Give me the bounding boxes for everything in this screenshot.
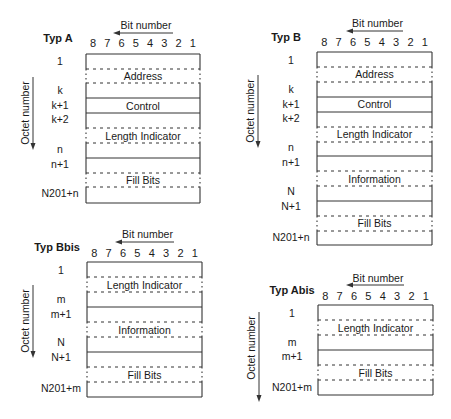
field-label: Fill Bits bbox=[359, 367, 393, 379]
octet-label: 1 bbox=[289, 307, 295, 319]
bit-digit: 4 bbox=[380, 290, 386, 302]
bit-number-label: Bit number bbox=[353, 272, 404, 284]
bit-digit: 5 bbox=[365, 290, 371, 302]
bit-digit: 7 bbox=[337, 290, 343, 302]
field-label: Length Indicator bbox=[338, 322, 414, 334]
octet-label: m+1 bbox=[282, 350, 303, 362]
octet-direction-arrow-icon bbox=[257, 312, 262, 402]
bit-digit: 2 bbox=[408, 290, 414, 302]
bit-digit: 8 bbox=[322, 290, 328, 302]
octet-label: m bbox=[288, 336, 297, 348]
panel-title: Typ Abis bbox=[269, 284, 314, 296]
octet-number-label: Octet number bbox=[245, 316, 257, 380]
panel-typ-abis-graphic: Typ AbisBit number87654321Octet number1m… bbox=[0, 0, 451, 419]
frame-box bbox=[318, 305, 433, 395]
bit-digit: 6 bbox=[351, 290, 357, 302]
octet-label: N201+m bbox=[272, 381, 312, 393]
panel-typ-abis: Typ AbisBit number87654321Octet number1m… bbox=[0, 0, 451, 419]
bit-digit: 1 bbox=[423, 290, 429, 302]
bit-digit: 3 bbox=[394, 290, 400, 302]
